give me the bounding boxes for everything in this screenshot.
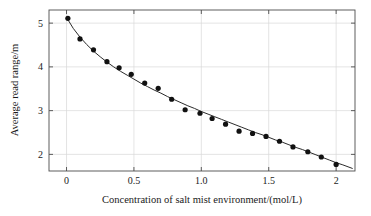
y-tick-label: 4 <box>38 61 43 72</box>
data-point <box>117 65 122 70</box>
grid-lines <box>49 10 355 171</box>
data-point <box>290 144 295 149</box>
data-point <box>142 80 147 85</box>
y-tick-labels: 2345 <box>38 18 43 160</box>
data-point <box>169 97 174 102</box>
data-point <box>104 59 109 64</box>
x-tick-label: 1.0 <box>195 175 208 186</box>
data-point <box>305 149 310 154</box>
data-point <box>263 134 268 139</box>
data-point <box>156 86 161 91</box>
plot-frame <box>49 10 355 171</box>
data-point <box>250 131 255 136</box>
data-point <box>319 154 324 159</box>
x-tick-label: 0 <box>64 175 69 186</box>
data-point <box>236 129 241 134</box>
tick-marks <box>49 10 355 171</box>
data-point <box>277 139 282 144</box>
data-point <box>91 47 96 52</box>
x-tick-label: 0.5 <box>128 175 141 186</box>
data-point <box>77 36 82 41</box>
data-point <box>197 111 202 116</box>
data-point <box>183 107 188 112</box>
x-tick-labels: 00.51.01.52 <box>64 175 339 186</box>
fitted-curve <box>67 17 353 168</box>
y-axis-title: Average read range/m <box>9 44 20 137</box>
scatter-plot-canvas: 00.51.01.52 2345 Concentration of salt m… <box>0 0 371 216</box>
data-point <box>223 122 228 127</box>
y-tick-label: 2 <box>38 149 43 160</box>
x-axis-title: Concentration of salt mist environment/(… <box>102 194 303 206</box>
y-tick-label: 5 <box>38 18 43 29</box>
data-point <box>65 16 70 21</box>
chart-figure: 00.51.01.52 2345 Concentration of salt m… <box>0 0 371 216</box>
data-point <box>334 162 339 167</box>
data-point <box>210 116 215 121</box>
data-point-series <box>65 16 338 167</box>
data-point <box>129 72 134 77</box>
x-tick-label: 1.5 <box>262 175 275 186</box>
x-tick-label: 2 <box>334 175 339 186</box>
y-tick-label: 3 <box>38 105 43 116</box>
